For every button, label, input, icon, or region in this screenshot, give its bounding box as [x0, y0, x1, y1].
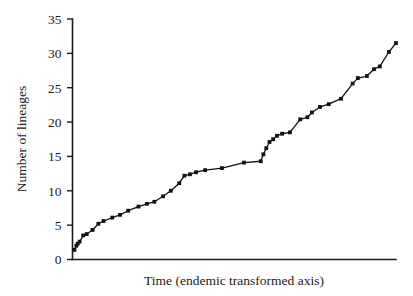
- data-point-marker: [365, 74, 369, 78]
- data-point-marker: [378, 65, 382, 69]
- chart-figure: 05101520253035 Time (endemic transformed…: [0, 0, 413, 296]
- data-point-marker: [91, 228, 95, 232]
- data-point-marker: [271, 137, 275, 141]
- data-point-marker: [102, 219, 106, 223]
- data-point-marker: [220, 166, 224, 170]
- data-point-marker: [394, 41, 398, 45]
- lineage-data-points: [73, 41, 398, 252]
- data-point-marker: [318, 105, 322, 109]
- data-point-marker: [161, 194, 165, 198]
- data-point-marker: [268, 140, 272, 144]
- y-tick-label: 25: [48, 81, 62, 96]
- y-tick-label: 15: [48, 149, 62, 164]
- y-axis-tick-labels: 05101520253035: [48, 12, 62, 267]
- y-axis-ticks: [67, 19, 73, 260]
- data-point-marker: [183, 174, 187, 178]
- data-point-marker: [137, 205, 141, 209]
- y-tick-label: 35: [48, 12, 62, 27]
- data-point-marker: [275, 134, 279, 138]
- data-point-marker: [259, 159, 263, 163]
- y-tick-label: 20: [48, 115, 62, 130]
- data-point-marker: [145, 202, 149, 206]
- data-point-marker: [264, 146, 268, 150]
- data-point-marker: [81, 234, 85, 238]
- data-point-marker: [298, 117, 302, 121]
- data-point-marker: [356, 76, 360, 80]
- data-point-marker: [118, 213, 122, 217]
- data-point-marker: [339, 97, 343, 101]
- data-point-marker: [73, 248, 77, 252]
- data-point-marker: [351, 82, 355, 86]
- y-tick-label: 5: [55, 218, 62, 233]
- data-point-marker: [110, 216, 114, 220]
- data-point-marker: [169, 189, 173, 193]
- data-point-marker: [242, 161, 246, 165]
- data-point-marker: [305, 115, 309, 119]
- x-axis-title: Time (endemic transformed axis): [144, 273, 324, 288]
- data-point-marker: [261, 152, 265, 156]
- y-tick-label: 0: [55, 252, 62, 267]
- data-point-marker: [188, 172, 192, 176]
- lineage-curve: [74, 43, 396, 250]
- data-point-marker: [194, 170, 198, 174]
- data-point-marker: [126, 209, 130, 213]
- data-point-marker: [96, 222, 100, 226]
- y-axis-title: Number of lineages: [14, 86, 29, 192]
- data-point-marker: [387, 50, 391, 54]
- data-point-marker: [327, 102, 331, 106]
- data-point-marker: [280, 132, 284, 136]
- y-tick-label: 30: [48, 46, 62, 61]
- data-point-marker: [152, 200, 156, 204]
- data-point-marker: [177, 181, 181, 185]
- data-point-marker: [203, 168, 207, 172]
- data-series-group: [73, 41, 398, 252]
- data-point-marker: [310, 111, 314, 115]
- y-tick-label: 10: [48, 184, 62, 199]
- data-point-marker: [288, 130, 292, 134]
- y-axis-group: 05101520253035: [48, 12, 73, 267]
- lineage-through-time-plot: 05101520253035 Time (endemic transformed…: [0, 0, 413, 296]
- data-point-marker: [372, 67, 376, 71]
- data-point-marker: [78, 240, 82, 244]
- data-point-marker: [85, 232, 89, 236]
